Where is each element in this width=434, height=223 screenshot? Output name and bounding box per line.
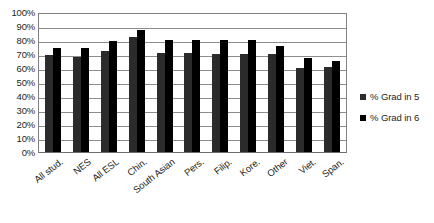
bar-group	[67, 14, 95, 152]
bar	[240, 54, 248, 152]
bar	[109, 41, 117, 152]
bar	[304, 58, 312, 152]
plot-area	[38, 13, 347, 153]
bar	[45, 55, 53, 152]
bar-group	[95, 14, 123, 152]
bar-group	[123, 14, 151, 152]
bar-chart: 100%90%80%70%60%50%40%30%20%10%0% All st…	[0, 0, 434, 223]
bar	[192, 40, 200, 152]
bar	[268, 54, 276, 152]
y-axis-tick-label: 10%	[17, 134, 35, 144]
bar	[165, 40, 173, 152]
bar	[53, 48, 61, 152]
bar-group	[206, 14, 234, 152]
legend-swatch-icon	[360, 94, 366, 100]
y-axis-tick-label: 50%	[17, 78, 35, 88]
bar-group	[234, 14, 262, 152]
y-axis-tick-label: 30%	[17, 106, 35, 116]
legend-item[interactable]: % Grad in 5	[360, 92, 434, 102]
x-axis-tick-label: Span.	[320, 156, 346, 180]
bar-group	[39, 14, 67, 152]
bar	[184, 53, 192, 152]
y-axis: 100%90%80%70%60%50%40%30%20%10%0%	[0, 0, 38, 223]
x-axis-tick-label: Viet.	[296, 156, 317, 176]
bar	[296, 68, 304, 152]
x-axis-tick-label: All ESL	[90, 156, 121, 183]
bar	[220, 40, 228, 152]
bar-group	[179, 14, 207, 152]
y-axis-tick-label: 80%	[17, 36, 35, 46]
bar-group	[290, 14, 318, 152]
x-axis-tick-label: Kore.	[237, 156, 261, 178]
y-axis-tick-label: 0%	[22, 148, 35, 158]
bar	[212, 54, 220, 152]
bar	[324, 67, 332, 152]
bars-layer	[39, 14, 346, 152]
y-axis-tick-label: 40%	[17, 92, 35, 102]
x-axis-tick-label: Other	[264, 156, 289, 179]
bar	[81, 48, 89, 152]
y-axis-tick-label: 20%	[17, 120, 35, 130]
y-axis-tick-label: 60%	[17, 64, 35, 74]
legend-item[interactable]: % Grad in 6	[360, 113, 434, 123]
legend-swatch-icon	[360, 115, 366, 121]
x-axis-tick-label: Filip.	[211, 156, 233, 177]
bar	[137, 30, 145, 152]
legend-label: % Grad in 6	[370, 113, 419, 123]
bar	[276, 46, 284, 152]
chart-legend: % Grad in 5% Grad in 6	[360, 92, 434, 134]
legend-label: % Grad in 5	[370, 92, 419, 102]
bar	[332, 61, 340, 152]
x-axis-tick-label: Pers.	[181, 156, 205, 178]
bar	[129, 37, 137, 152]
y-axis-tick-label: 90%	[17, 22, 35, 32]
bar	[248, 40, 256, 152]
x-axis: All stud.NESAll ESLChin.South AsianPers.…	[38, 153, 347, 223]
y-axis-tick-label: 100%	[12, 8, 36, 18]
y-axis-tick-label: 70%	[17, 50, 35, 60]
bar	[101, 51, 109, 152]
bar-group	[318, 14, 346, 152]
bar-group	[262, 14, 290, 152]
bar	[73, 57, 81, 152]
bar-group	[151, 14, 179, 152]
bar	[157, 53, 165, 152]
